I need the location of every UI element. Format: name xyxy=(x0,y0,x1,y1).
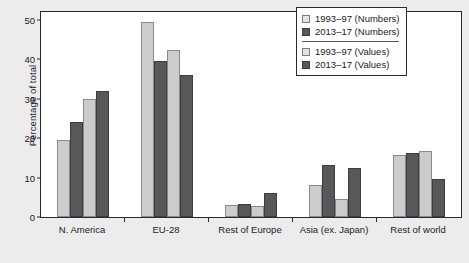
bar xyxy=(393,155,406,217)
bar xyxy=(348,168,361,217)
x-axis-label: Rest of world xyxy=(390,224,445,235)
bar xyxy=(96,91,109,217)
bar xyxy=(264,193,277,217)
x-axis-tick-mark xyxy=(208,218,209,222)
y-axis-tick: 0 xyxy=(30,212,41,223)
legend-divider xyxy=(302,41,399,42)
y-axis-tick-label: 30 xyxy=(24,93,37,104)
legend-swatch-icon xyxy=(302,15,310,23)
y-axis-tick-label: 10 xyxy=(24,172,37,183)
y-axis-tick-label: 0 xyxy=(30,212,37,223)
bar xyxy=(322,165,335,217)
bar xyxy=(251,206,264,217)
legend-item-label: 2013–17 (Numbers) xyxy=(315,26,400,37)
legend-swatch-icon xyxy=(302,48,310,56)
bar xyxy=(70,122,83,217)
bar xyxy=(180,75,193,217)
x-axis-label: EU-28 xyxy=(153,224,180,235)
bar xyxy=(167,50,180,217)
bar-chart: Percentage of total 01020304050 N. Ameri… xyxy=(0,0,469,263)
legend-item-label: 2013–17 (Values) xyxy=(315,59,389,70)
bar xyxy=(335,199,348,217)
bar xyxy=(419,151,432,217)
bar xyxy=(57,140,70,217)
y-axis-tick-label: 40 xyxy=(24,54,37,65)
legend-swatch-icon xyxy=(302,28,310,36)
legend-item-label: 1993–97 (Values) xyxy=(315,46,389,57)
y-axis-tick-label: 20 xyxy=(24,133,37,144)
bar xyxy=(406,153,419,217)
bar xyxy=(432,179,445,217)
y-axis-tick: 20 xyxy=(24,133,41,144)
legend-item-1[interactable]: 2013–17 (Numbers) xyxy=(302,25,400,38)
bar xyxy=(238,204,251,217)
x-axis-label: Asia (ex. Japan) xyxy=(300,224,369,235)
y-axis-tick-label: 50 xyxy=(24,14,37,25)
y-axis-tick: 50 xyxy=(24,14,41,25)
legend: 1993–97 (Numbers) 2013–17 (Numbers) 1993… xyxy=(296,7,407,76)
legend-item-label: 1993–97 (Numbers) xyxy=(315,13,400,24)
bar xyxy=(83,99,96,217)
legend-item-2[interactable]: 1993–97 (Values) xyxy=(302,45,400,58)
bar xyxy=(141,22,154,217)
legend-item-0[interactable]: 1993–97 (Numbers) xyxy=(302,12,400,25)
x-axis-label: N. America xyxy=(59,224,105,235)
y-axis-title: Percentage of total xyxy=(27,26,38,186)
bar xyxy=(225,205,238,217)
legend-item-3[interactable]: 2013–17 (Values) xyxy=(302,58,400,71)
x-axis-label: Rest of Europe xyxy=(218,224,281,235)
bar xyxy=(309,185,322,217)
x-axis-tick-mark xyxy=(292,218,293,222)
bar xyxy=(154,61,167,217)
x-axis-tick-mark xyxy=(124,218,125,222)
legend-swatch-icon xyxy=(302,61,310,69)
x-axis-tick-mark xyxy=(376,218,377,222)
y-axis-tick: 40 xyxy=(24,54,41,65)
y-axis-tick: 10 xyxy=(24,172,41,183)
y-axis-tick: 30 xyxy=(24,93,41,104)
